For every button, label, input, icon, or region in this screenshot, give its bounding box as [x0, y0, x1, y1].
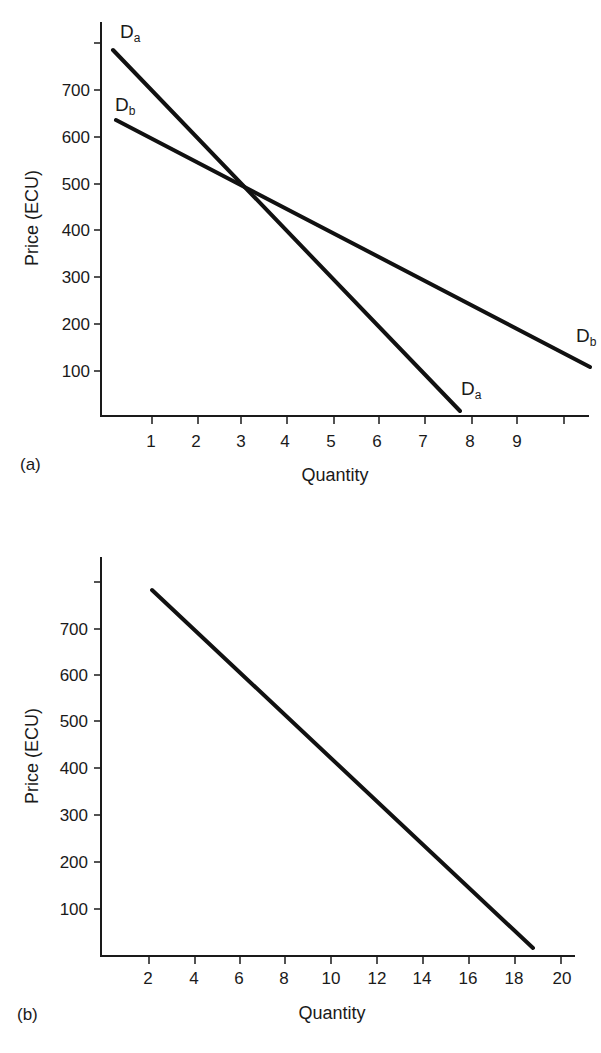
demand-curve-db — [116, 120, 590, 367]
chart-b-y-ticks — [94, 582, 101, 909]
panel-label-b: (b) — [17, 1005, 38, 1024]
x-tick-label: 14 — [413, 969, 432, 988]
chart-b-y-axis-title: Price (ECU) — [22, 708, 42, 804]
x-tick-label: 2 — [191, 432, 200, 451]
x-tick-label: 20 — [553, 969, 572, 988]
y-tick-label: 600 — [62, 128, 90, 147]
y-tick-label: 200 — [62, 315, 90, 334]
y-tick-label: 200 — [60, 853, 88, 872]
y-tick-label: 600 — [60, 666, 88, 685]
x-tick-label: 8 — [465, 432, 474, 451]
y-tick-label: 100 — [62, 362, 90, 381]
x-tick-label: 5 — [326, 432, 335, 451]
x-tick-label: 18 — [505, 969, 524, 988]
label-da-start: Da — [120, 21, 141, 45]
chart-a: 100 200 300 400 500 600 700 1 2 3 4 5 — [20, 21, 597, 485]
chart-a-y-axis-title: Price (ECU) — [22, 170, 42, 266]
x-tick-label: 12 — [368, 969, 387, 988]
x-tick-label: 8 — [279, 969, 288, 988]
x-tick-label: 4 — [189, 969, 198, 988]
x-tick-label: 10 — [322, 969, 341, 988]
y-tick-label: 300 — [62, 268, 90, 287]
chart-b-x-axis-title: Quantity — [298, 1003, 365, 1023]
x-tick-label: 7 — [418, 432, 427, 451]
x-tick-label: 16 — [459, 969, 478, 988]
figure: 100 200 300 400 500 600 700 1 2 3 4 5 — [0, 0, 601, 1053]
x-tick-label: 3 — [236, 432, 245, 451]
label-da-end: Da — [461, 378, 482, 402]
demand-curve-da — [113, 50, 460, 411]
y-tick-label: 400 — [62, 221, 90, 240]
x-tick-label: 2 — [143, 969, 152, 988]
panel-label-a: (a) — [20, 455, 41, 474]
y-tick-label: 700 — [62, 81, 90, 100]
x-tick-label: 6 — [372, 432, 381, 451]
x-tick-label: 6 — [234, 969, 243, 988]
chart-a-y-tick-labels: 100 200 300 400 500 600 700 — [62, 81, 90, 381]
chart-a-y-ticks — [94, 43, 101, 371]
y-tick-label: 500 — [62, 175, 90, 194]
chart-a-x-axis-title: Quantity — [301, 465, 368, 485]
chart-b-x-tick-labels: 2 4 6 8 10 12 14 16 18 20 — [143, 969, 571, 988]
y-tick-label: 400 — [60, 759, 88, 778]
y-tick-label: 500 — [60, 712, 88, 731]
x-tick-label: 4 — [280, 432, 289, 451]
chart-b-x-ticks — [149, 956, 561, 964]
chart-a-x-ticks — [152, 416, 564, 424]
chart-a-x-tick-labels: 1 2 3 4 5 6 7 8 9 — [146, 432, 521, 451]
chart-b-y-tick-labels: 100 200 300 400 500 600 700 — [60, 620, 88, 919]
y-tick-label: 100 — [60, 900, 88, 919]
x-tick-label: 9 — [512, 432, 521, 451]
y-tick-label: 300 — [60, 806, 88, 825]
market-demand-curve — [152, 590, 533, 948]
y-tick-label: 700 — [60, 620, 88, 639]
x-tick-label: 1 — [146, 432, 155, 451]
label-db-end: Db — [576, 325, 597, 349]
label-db-start: Db — [115, 94, 136, 118]
chart-b: 100 200 300 400 500 600 700 2 4 6 8 10 — [17, 557, 575, 1024]
